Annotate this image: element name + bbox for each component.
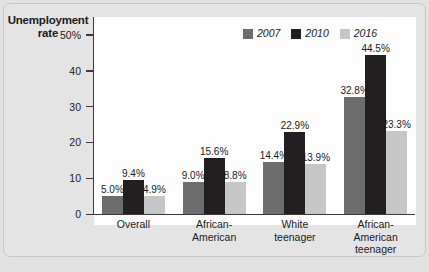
y-tick-mark — [86, 70, 93, 71]
bar-group: 32.8%44.5%23.3% — [344, 17, 407, 214]
x-axis-line — [93, 214, 415, 215]
bar-2007-white-teenager[interactable]: 14.4% — [263, 162, 284, 214]
bar-value-label: 9.4% — [122, 168, 145, 179]
bar-value-label: 44.5% — [361, 43, 389, 54]
y-tick-mark — [86, 106, 93, 107]
bar-value-label: 15.6% — [200, 146, 228, 157]
bar-2007-african-american-teenager[interactable]: 32.8% — [344, 97, 365, 214]
y-tick: 50% — [33, 29, 93, 41]
y-tick-mark — [86, 178, 93, 179]
bar-value-label: 23.3% — [382, 119, 410, 130]
figure-card: Unemployment rate 01020304050% 200720102… — [0, 0, 429, 272]
y-tick-mark — [86, 214, 93, 215]
bar-2007-african-american[interactable]: 9.0% — [183, 182, 204, 214]
y-tick-label: 20 — [29, 136, 81, 148]
bar-group: 14.4%22.9%13.9% — [263, 17, 326, 214]
bar-2016-overall[interactable]: 4.9% — [144, 196, 165, 214]
bar-value-label: 13.9% — [302, 152, 330, 163]
bar-2010-overall[interactable]: 9.4% — [123, 180, 144, 214]
bar-2016-african-american[interactable]: 8.8% — [225, 182, 246, 214]
bar-group: 9.0%15.6%8.8% — [183, 17, 246, 214]
bar-2010-african-american[interactable]: 15.6% — [204, 158, 225, 214]
bar-2007-overall[interactable]: 5.0% — [102, 196, 123, 214]
y-tick: 10 — [33, 172, 93, 184]
y-tick: 0 — [33, 208, 93, 220]
y-tick: 30 — [33, 101, 93, 113]
bar-2016-african-american-teenager[interactable]: 23.3% — [386, 131, 407, 214]
category-label-line: teenager — [327, 243, 424, 256]
bar-value-label: 9.0% — [182, 170, 205, 181]
y-tick-label: 40 — [29, 65, 81, 77]
bar-value-label: 5.0% — [101, 184, 124, 195]
bar-value-label: 8.8% — [224, 170, 247, 181]
category-label: African-Americanteenager — [327, 218, 424, 256]
y-axis-line — [93, 17, 94, 215]
bar-value-label: 4.9% — [143, 184, 166, 195]
y-tick-label: 50% — [29, 29, 81, 41]
y-tick-mark — [86, 34, 93, 35]
category-label-line: American — [327, 231, 424, 244]
bar-value-label: 22.9% — [281, 120, 309, 131]
y-tick: 40 — [33, 65, 93, 77]
category-label-line: African- — [327, 218, 424, 231]
bar-2010-white-teenager[interactable]: 22.9% — [284, 132, 305, 214]
y-tick-mark — [86, 142, 93, 143]
y-tick-label: 30 — [29, 101, 81, 113]
y-tick: 20 — [33, 136, 93, 148]
y-tick-label: 0 — [29, 208, 81, 220]
bar-group: 5.0%9.4%4.9% — [102, 17, 165, 214]
bar-2016-white-teenager[interactable]: 13.9% — [305, 164, 326, 214]
bar-2010-african-american-teenager[interactable]: 44.5% — [365, 55, 386, 214]
y-tick-label: 10 — [29, 172, 81, 184]
